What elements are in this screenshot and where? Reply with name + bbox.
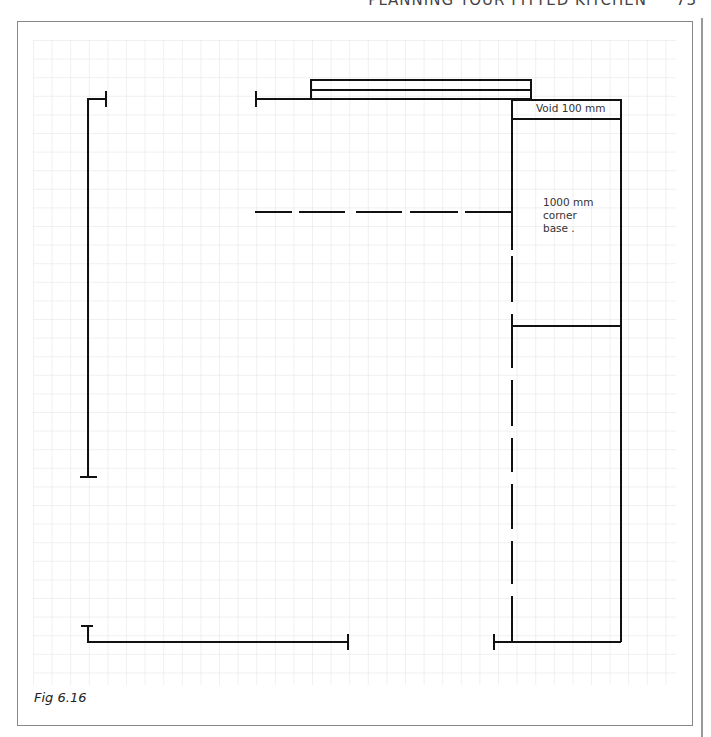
corner-label-line2: corner	[543, 209, 594, 222]
graph-paper-grid	[33, 40, 676, 685]
corner-label-line3: base .	[543, 222, 594, 235]
corner-label-line1: 1000 mm	[543, 196, 594, 209]
void-label: Void 100 mm	[536, 102, 606, 115]
corner-base-label: 1000 mm corner base .	[543, 196, 594, 235]
figure-caption: Fig 6.16	[34, 690, 86, 705]
